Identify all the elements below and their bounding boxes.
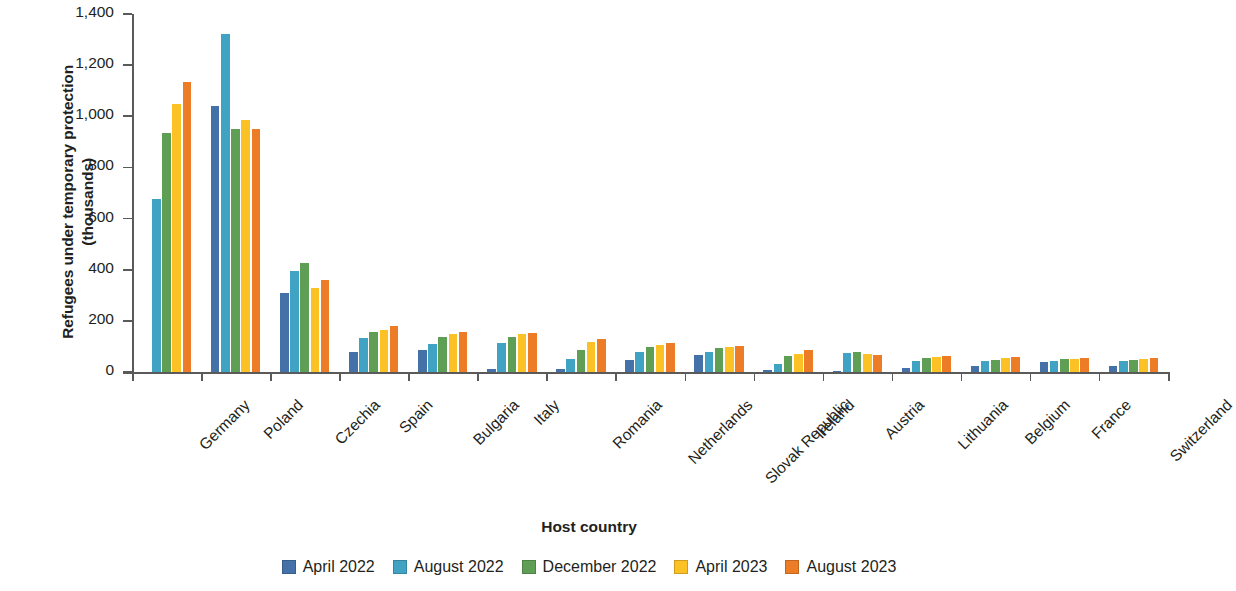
y-axis-tick-label: 200: [88, 310, 114, 328]
bar: [321, 280, 330, 372]
legend-item[interactable]: April 2022: [282, 558, 375, 576]
bar-group-bars: [1040, 14, 1089, 372]
bar-group: [763, 14, 812, 372]
bar-groups: [132, 14, 1168, 372]
legend-item[interactable]: August 2022: [393, 558, 504, 576]
chart-legend: April 2022August 2022December 2022April …: [0, 558, 1178, 576]
bar-group: [1109, 14, 1158, 372]
bar: [418, 350, 427, 373]
bar: [252, 129, 261, 372]
bar: [635, 352, 644, 372]
bar: [843, 353, 852, 372]
y-axis-tick-mark: [123, 167, 132, 169]
bar: [183, 82, 192, 372]
legend-item[interactable]: April 2023: [674, 558, 767, 576]
x-axis-tick-mark: [1099, 372, 1101, 381]
bar: [487, 369, 496, 372]
bar-group-bars: [625, 14, 674, 372]
legend-item[interactable]: December 2022: [522, 558, 657, 576]
x-axis-tick-label: Germany: [195, 396, 253, 454]
bar: [922, 358, 931, 372]
legend-label: April 2023: [695, 558, 767, 576]
x-axis-tick-label: Netherlands: [684, 396, 756, 468]
legend-swatch: [393, 560, 407, 574]
bar: [774, 364, 783, 372]
x-axis-spine: [123, 372, 1168, 374]
bar: [1080, 358, 1089, 372]
bar: [528, 333, 537, 372]
bar: [1070, 359, 1079, 372]
bar: [349, 352, 358, 372]
bar: [971, 366, 980, 372]
legend-swatch: [785, 560, 799, 574]
bar-group-bars: [971, 14, 1020, 372]
bar-group-bars: [763, 14, 812, 372]
x-axis-tick-label: Italy: [530, 396, 563, 429]
bar: [1011, 357, 1020, 372]
bar-group: [211, 14, 260, 372]
bar-group-bars: [487, 14, 536, 372]
legend-swatch: [674, 560, 688, 574]
bar: [1060, 359, 1069, 372]
bar: [1109, 366, 1118, 372]
x-axis-tick-label: Bulgaria: [469, 396, 522, 449]
bar: [211, 106, 220, 372]
bar-group: [349, 14, 398, 372]
bar: [1001, 358, 1010, 372]
bar: [241, 120, 250, 372]
x-axis-tick-label: Lithuania: [955, 396, 1012, 453]
bar: [853, 352, 862, 372]
bar: [518, 334, 527, 372]
bar-group-bars: [694, 14, 743, 372]
bar-group: [280, 14, 329, 372]
bar: [311, 288, 320, 372]
x-axis-tick-label: Romania: [609, 396, 666, 453]
x-axis-tick-mark: [754, 372, 756, 381]
bar: [172, 104, 181, 372]
bar-group-bars: [556, 14, 605, 372]
bar: [438, 337, 447, 372]
x-axis-title: Host country: [0, 518, 1178, 536]
y-axis-tick-mark: [123, 371, 132, 373]
y-axis-tick-label: 1,400: [75, 3, 114, 21]
legend-item[interactable]: August 2023: [785, 558, 896, 576]
x-axis-tick-mark: [892, 372, 894, 381]
y-axis-tick-mark: [123, 269, 132, 271]
bar: [784, 356, 793, 372]
bar: [587, 342, 596, 372]
x-axis-tick-label: Spain: [395, 396, 436, 437]
x-axis-tick-mark: [132, 372, 134, 381]
bar-group-bars: [142, 14, 191, 372]
bar: [1129, 360, 1138, 372]
bar: [508, 337, 517, 372]
y-axis-tick-label: 1,200: [75, 54, 114, 72]
y-axis-tick-mark: [123, 13, 132, 15]
legend-label: December 2022: [543, 558, 657, 576]
bar: [1040, 362, 1049, 372]
bar-group-bars: [211, 14, 260, 372]
bar: [152, 199, 161, 372]
bar: [863, 354, 872, 372]
bar: [577, 350, 586, 373]
x-axis-tick-mark: [339, 372, 341, 381]
bar: [715, 348, 724, 372]
bar: [1119, 361, 1128, 372]
bar: [390, 326, 399, 372]
x-axis-tick-mark: [615, 372, 617, 381]
bar-group: [833, 14, 882, 372]
bar: [763, 370, 772, 372]
x-axis-tick-label: Switzerland: [1167, 396, 1236, 465]
bar: [359, 338, 368, 372]
bar: [369, 332, 378, 372]
x-axis-tick-label: Austria: [881, 396, 928, 443]
bar: [804, 350, 813, 372]
bar: [497, 343, 506, 372]
bar: [735, 346, 744, 372]
legend-label: August 2022: [414, 558, 504, 576]
bar: [725, 347, 734, 372]
bar: [666, 343, 675, 372]
x-axis-tick-mark: [546, 372, 548, 381]
bar: [981, 361, 990, 372]
x-axis-tick-mark: [685, 372, 687, 381]
